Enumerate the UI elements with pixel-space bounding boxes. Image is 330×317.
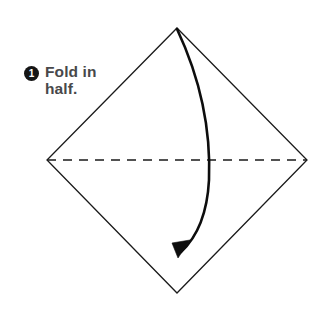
- step-number-badge: 1: [24, 66, 39, 81]
- step-instruction-text: Fold in half.: [45, 63, 97, 97]
- origami-step-figure: 1 Fold in half.: [0, 0, 330, 317]
- step-number-label: 1: [24, 66, 39, 81]
- diagram-canvas: [0, 0, 330, 317]
- step-caption: 1 Fold in half.: [24, 63, 97, 97]
